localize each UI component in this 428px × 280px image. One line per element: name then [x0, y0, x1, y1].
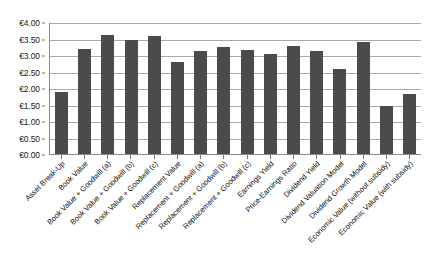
- y-axis-tick-label: €2.50: [19, 68, 40, 78]
- x-axis-tick-mark: [316, 155, 317, 159]
- x-axis-tick-mark: [177, 155, 178, 159]
- y-axis-tick-mark: [42, 72, 45, 73]
- x-axis-tick-mark: [200, 155, 201, 159]
- x-axis-tick-mark: [386, 155, 387, 159]
- x-axis-tick-mark: [270, 155, 271, 159]
- bar-slot: [375, 23, 398, 154]
- x-axis-tick-mark: [84, 155, 85, 159]
- y-axis-tick-label: €1.00: [19, 117, 40, 127]
- bar: [125, 40, 138, 154]
- bar-slot: [50, 23, 73, 154]
- bar-chart-figure: €4.00€3.50€3.00€2.50€2.00€1.50€1.00€0.50…: [0, 0, 428, 280]
- x-axis-tick-mark: [293, 155, 294, 159]
- y-axis-tick-label: €4.00: [19, 18, 40, 28]
- x-axis-tick-mark: [223, 155, 224, 159]
- x-axis-labels: Asset Break-UpBook ValueBook Value + Goo…: [49, 160, 421, 280]
- plot-area: [49, 23, 421, 155]
- bar: [241, 50, 254, 154]
- bar-slot: [398, 23, 421, 154]
- bar: [55, 92, 68, 154]
- bar: [101, 35, 114, 154]
- bar-slot: [73, 23, 96, 154]
- bar: [403, 94, 416, 154]
- y-axis-tick-mark: [42, 23, 45, 24]
- bar: [310, 51, 323, 154]
- y-axis-tick-label: €2.00: [19, 84, 40, 94]
- y-axis-tick-mark: [42, 39, 45, 40]
- bar: [171, 62, 184, 154]
- bar: [357, 42, 370, 154]
- y-axis-tick-mark: [42, 56, 45, 57]
- bar-slot: [120, 23, 143, 154]
- bar: [217, 47, 230, 154]
- x-axis-tick-mark: [154, 155, 155, 159]
- y-axis-tick-mark: [42, 155, 45, 156]
- bars-layer: [50, 23, 421, 154]
- x-axis-tick-mark: [340, 155, 341, 159]
- y-axis-tick-mark: [42, 89, 45, 90]
- x-axis-tick-mark: [409, 155, 410, 159]
- bar: [380, 106, 393, 154]
- x-axis-tick-mark: [247, 155, 248, 159]
- y-axis-tick-label: €3.50: [19, 35, 40, 45]
- bar-slot: [96, 23, 119, 154]
- bar-slot: [328, 23, 351, 154]
- bar: [333, 69, 346, 154]
- bar-slot: [166, 23, 189, 154]
- bar: [78, 49, 91, 154]
- bar-slot: [212, 23, 235, 154]
- bar: [287, 46, 300, 154]
- bar: [148, 36, 161, 154]
- y-axis-tick-label: €0.00: [19, 150, 40, 160]
- y-axis-tick-mark: [42, 138, 45, 139]
- bar-slot: [236, 23, 259, 154]
- x-axis-tick-mark: [363, 155, 364, 159]
- y-axis-tick-label: €3.00: [19, 51, 40, 61]
- bar-slot: [259, 23, 282, 154]
- y-axis-tick-mark: [42, 105, 45, 106]
- bar-slot: [282, 23, 305, 154]
- bar: [264, 54, 277, 154]
- bar-slot: [143, 23, 166, 154]
- y-axis: €4.00€3.50€3.00€2.50€2.00€1.50€1.00€0.50…: [0, 23, 45, 155]
- bar-slot: [305, 23, 328, 154]
- bar-slot: [351, 23, 374, 154]
- x-axis-tick-mark: [107, 155, 108, 159]
- bar-slot: [189, 23, 212, 154]
- bar: [194, 51, 207, 154]
- y-axis-tick-label: €0.50: [19, 134, 40, 144]
- x-axis-tick-mark: [130, 155, 131, 159]
- x-axis-tick-mark: [61, 155, 62, 159]
- y-axis-tick-label: €1.50: [19, 101, 40, 111]
- y-axis-tick-mark: [42, 122, 45, 123]
